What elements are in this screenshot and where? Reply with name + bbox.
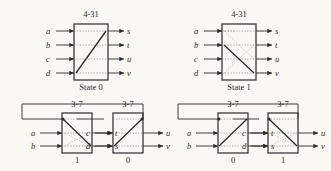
- output-label-v-state-1: v: [275, 69, 279, 78]
- output-label-t-state-1: t: [275, 41, 277, 50]
- input-label-a-state-1: a: [194, 27, 198, 36]
- input-label-c-state-1: c: [194, 55, 198, 64]
- block-caption-right-group-second: 1: [268, 156, 298, 165]
- group-3-7-right: [178, 104, 318, 153]
- switch-caption-state-1: State 1: [209, 83, 269, 92]
- output-label-t-left-group: t: [115, 129, 117, 138]
- switch-4-31-state-1: [204, 24, 272, 80]
- input-label-b-state-0: b: [46, 41, 50, 50]
- switch-4-31-state-0: [56, 24, 124, 80]
- block-caption-right-group-first: 0: [218, 156, 248, 165]
- output-label-s-left-group: s: [115, 142, 118, 151]
- input-label-a-state-0: a: [46, 27, 50, 36]
- input-label-a-right-group: a: [187, 129, 191, 138]
- output-label-s-state-1: s: [275, 27, 278, 36]
- switch-title-4-31-state-0: 4-31: [74, 10, 108, 19]
- block-title-left-group-second: 3-7: [113, 100, 143, 109]
- block-title-right-group-first: 3-7: [218, 100, 248, 109]
- output-label-u-right-group: u: [321, 129, 325, 138]
- switch-caption-state-0: State 0: [61, 83, 121, 92]
- block-title-right-group-second: 3-7: [268, 100, 298, 109]
- input-label-c-left-group: c: [86, 129, 90, 138]
- switch-title-4-31-state-1: 4-31: [222, 10, 256, 19]
- input-label-c-right-group: c: [242, 129, 246, 138]
- output-label-s-state-0: s: [127, 27, 130, 36]
- input-label-b-left-group: b: [31, 142, 35, 151]
- group-3-7-left: [22, 104, 163, 153]
- block-caption-left-group-first: 1: [62, 156, 92, 165]
- output-label-v-state-0: v: [127, 69, 131, 78]
- input-label-d-state-0: d: [46, 69, 50, 78]
- figure-canvas: 4-31 a b c d s t u v State 0 4-31 a b c …: [0, 0, 331, 171]
- input-label-b-state-1: b: [194, 41, 198, 50]
- output-label-u-left-group: u: [166, 129, 170, 138]
- output-label-v-left-group: v: [166, 142, 170, 151]
- input-label-d-left-group: d: [86, 142, 90, 151]
- output-label-t-right-group: t: [271, 129, 273, 138]
- input-label-c-state-0: c: [46, 55, 50, 64]
- block-title-left-group-first: 3-7: [62, 100, 92, 109]
- output-label-u-state-1: u: [275, 55, 279, 64]
- output-label-s-right-group: s: [271, 142, 274, 151]
- output-label-u-state-0: u: [127, 55, 131, 64]
- output-label-t-state-0: t: [127, 41, 129, 50]
- input-label-a-left-group: a: [31, 129, 35, 138]
- block-caption-left-group-second: 0: [113, 156, 143, 165]
- input-label-d-state-1: d: [194, 69, 198, 78]
- input-label-d-right-group: d: [242, 142, 246, 151]
- input-label-b-right-group: b: [187, 142, 191, 151]
- output-label-v-right-group: v: [321, 142, 325, 151]
